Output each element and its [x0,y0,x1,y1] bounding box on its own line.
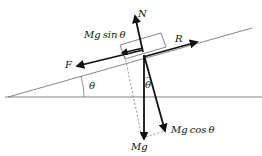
reaction-force-arrow [143,42,197,57]
mg-cos-arrow [144,55,165,131]
dashed-line-1 [124,52,142,138]
normal-force-arrow [135,16,143,52]
label-mg-cos: Mgcosθ [170,124,214,135]
force-diagram: θ N R F Mgsinθ Mg Mgcosθ θ [0,0,262,156]
label-N: N [137,8,148,19]
theta-vertical-label: θ [145,79,151,90]
label-R: R [174,33,183,44]
label-mg-sin: Mgsinθ [83,29,125,40]
theta-incline-label: θ [89,80,95,91]
incline-line [8,28,252,97]
friction-force-arrow [77,50,143,66]
dashed-line-2 [142,131,165,138]
label-F: F [64,59,73,70]
block [120,33,166,59]
incline-angle-arc [81,76,84,97]
label-Mg: Mg [130,141,148,152]
